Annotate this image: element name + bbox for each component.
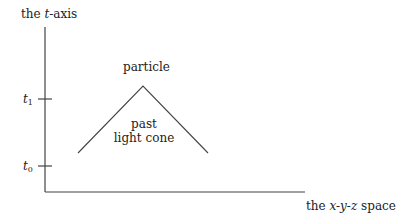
space-axis-label-prefix: the <box>306 199 329 213</box>
space-axis-label-suffix: space <box>357 199 396 213</box>
tick-t0-sub: 0 <box>28 165 33 174</box>
tick-label-t1: t1 <box>23 92 33 106</box>
cone-label-line1: past <box>110 117 178 131</box>
t-axis-label: the t-axis <box>21 7 77 21</box>
space-axis-label: the x-y-z space <box>306 199 396 213</box>
tick-label-t0: t0 <box>23 159 33 173</box>
particle-label: particle <box>123 60 170 74</box>
tick-t1-sub: 1 <box>28 98 33 107</box>
space-axis-label-vars: x-y-z <box>329 199 357 213</box>
t-axis-label-suffix: -axis <box>49 7 77 21</box>
t-axis-label-prefix: the <box>21 7 44 21</box>
diagram-canvas <box>0 0 403 217</box>
cone-label-line2: light cone <box>110 131 178 145</box>
cone-label: past light cone <box>110 117 178 145</box>
